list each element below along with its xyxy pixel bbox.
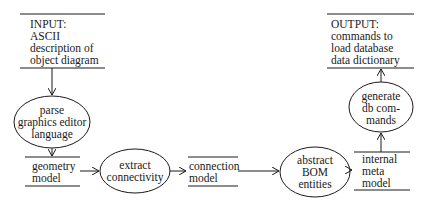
geometry-store-label: geometry model xyxy=(32,160,75,184)
parse-line-3: language xyxy=(14,128,90,140)
meta-line-3: model xyxy=(362,177,397,189)
output-store-label: OUTPUT: commands to load database data d… xyxy=(331,18,400,66)
generate-line-1: generate xyxy=(349,90,413,102)
output-line-2: commands to xyxy=(331,30,400,42)
meta-line-2: meta xyxy=(362,165,397,177)
meta-store-label: internal meta model xyxy=(362,153,397,189)
input-line-3: description of xyxy=(30,42,99,54)
abstract-process-label: abstract BOM entities xyxy=(280,154,350,190)
connection-line-1: connection xyxy=(189,160,239,172)
input-line-4: object diagram xyxy=(30,54,99,66)
connection-line-2: model xyxy=(189,172,239,184)
input-store-label: INPUT: ASCII description of object diagr… xyxy=(30,18,99,66)
output-line-3: load database xyxy=(331,42,400,54)
generate-line-3: mands xyxy=(349,114,413,126)
abstract-line-3: entities xyxy=(280,178,350,190)
output-line-1: OUTPUT: xyxy=(331,18,400,30)
parse-line-1: parse xyxy=(14,104,90,116)
extract-line-2: connectivity xyxy=(100,171,170,183)
output-line-4: data dictionary xyxy=(331,54,400,66)
parse-line-2: graphics editor xyxy=(14,116,90,128)
abstract-line-2: BOM xyxy=(280,166,350,178)
generate-process-label: generate db com- mands xyxy=(349,90,413,126)
meta-line-1: internal xyxy=(362,153,397,165)
geometry-line-1: geometry xyxy=(32,160,75,172)
input-line-2: ASCII xyxy=(30,30,99,42)
parse-process-label: parse graphics editor language xyxy=(14,104,90,140)
extract-line-1: extract xyxy=(100,159,170,171)
extract-process-label: extract connectivity xyxy=(100,159,170,183)
abstract-line-1: abstract xyxy=(280,154,350,166)
generate-line-2: db com- xyxy=(349,102,413,114)
connection-store-label: connection model xyxy=(189,160,239,184)
input-line-1: INPUT: xyxy=(30,18,99,30)
geometry-line-2: model xyxy=(32,172,75,184)
